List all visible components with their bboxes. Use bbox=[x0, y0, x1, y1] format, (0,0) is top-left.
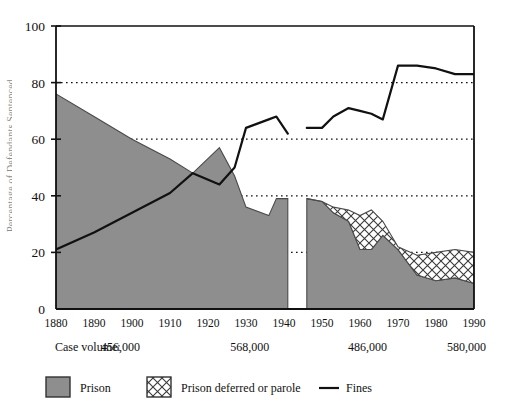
x-tick-1900: 1900 bbox=[121, 317, 144, 329]
legend-swatch-prison bbox=[46, 377, 70, 397]
legend-label-fines: Fines bbox=[346, 381, 372, 395]
x-tick-1910: 1910 bbox=[159, 317, 182, 329]
y-tick-80: 80 bbox=[32, 76, 46, 91]
fines-line-segment bbox=[307, 66, 474, 128]
x-tick-1940: 1940 bbox=[273, 317, 296, 329]
x-tick-1950: 1950 bbox=[311, 317, 334, 329]
y-tick-20: 20 bbox=[32, 245, 46, 260]
case-volume-row: Case volume:456,000568,000486,000580,000 bbox=[55, 340, 486, 354]
y-tick-40: 40 bbox=[32, 189, 46, 204]
case-volume-value-1: 568,000 bbox=[230, 340, 269, 354]
case-volume-value-3: 580,000 bbox=[447, 340, 486, 354]
x-tick-1880: 1880 bbox=[45, 317, 68, 329]
y-tick-60: 60 bbox=[32, 132, 46, 147]
x-tick-1970: 1970 bbox=[387, 317, 410, 329]
x-tick-1990: 1990 bbox=[463, 317, 486, 329]
y-tick-100: 100 bbox=[25, 19, 46, 34]
chart-root: Percentage of Defendants Sentenced 02040… bbox=[0, 0, 509, 416]
chart-svg: 020406080100 188018901900191019201930194… bbox=[0, 0, 509, 416]
prison-area bbox=[56, 94, 474, 309]
y-axis-title-text: Percentage of Defendants Sentenced bbox=[5, 0, 13, 316]
x-tick-1920: 1920 bbox=[197, 317, 220, 329]
legend-label-prison: Prison bbox=[80, 381, 111, 395]
y-tick-0: 0 bbox=[38, 302, 45, 317]
x-tick-1890: 1890 bbox=[83, 317, 106, 329]
legend-swatch-parole bbox=[147, 377, 171, 397]
x-tick-1960: 1960 bbox=[349, 317, 372, 329]
x-tick-1980: 1980 bbox=[425, 317, 448, 329]
x-axis-ticks: 1880189019001910192019301940195019601970… bbox=[45, 317, 486, 329]
case-volume-value-0: 456,000 bbox=[101, 340, 140, 354]
x-tick-1930: 1930 bbox=[235, 317, 258, 329]
case-volume-value-2: 486,000 bbox=[348, 340, 387, 354]
y-axis-title: Percentage of Defendants Sentenced bbox=[0, 0, 12, 330]
legend-label-parole: Prison deferred or parole bbox=[181, 381, 301, 395]
chart-legend: PrisonPrison deferred or paroleFines bbox=[46, 377, 372, 397]
